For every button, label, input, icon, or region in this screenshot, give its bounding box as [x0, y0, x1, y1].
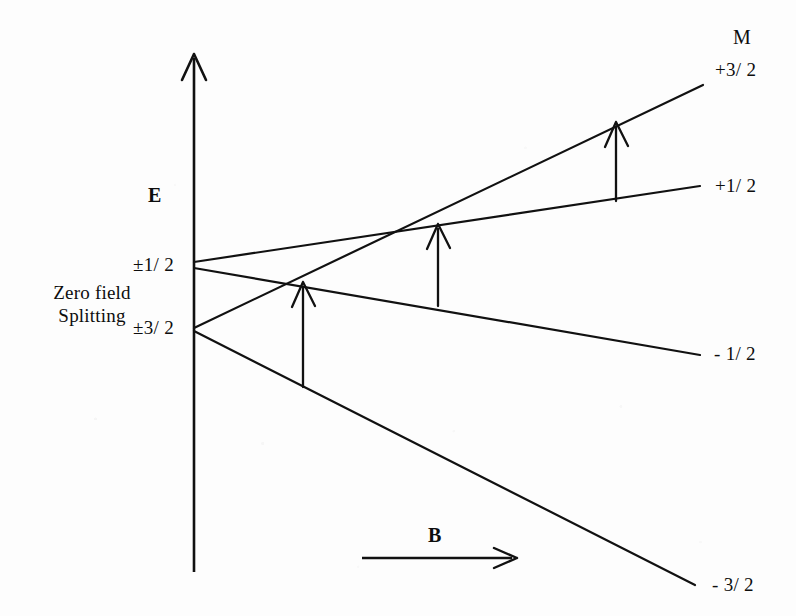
level-label-plus-three-half: +3/ 2 — [715, 60, 756, 79]
energy-level-lines — [194, 85, 703, 585]
figure-canvas: E B M Zero field Splitting ±1/ 2 ±3/ 2 +… — [0, 0, 796, 616]
transition-arrow-3 — [605, 122, 628, 201]
energy-axis-group — [182, 54, 206, 572]
m-quantum-number-header: M — [733, 27, 751, 47]
level-line-minus-one-half — [194, 268, 700, 355]
transition-arrows — [292, 122, 628, 387]
level-label-minus-one-half: - 1/ 2 — [714, 344, 756, 363]
level-label-plus-one-half: +1/ 2 — [715, 176, 756, 195]
field-axis-label: B — [428, 525, 441, 545]
level-line-minus-three-half — [194, 331, 695, 585]
transition-arrow-2 — [427, 224, 450, 306]
zero-field-level-half-label: ±1/ 2 — [133, 255, 174, 274]
level-label-minus-three-half: - 3/ 2 — [712, 575, 754, 594]
level-line-plus-one-half — [194, 186, 700, 262]
field-axis-group — [362, 548, 517, 568]
zero-field-splitting-line1: Zero field — [18, 281, 166, 304]
transition-arrow-1 — [292, 282, 315, 387]
level-line-plus-three-half — [194, 85, 703, 328]
energy-axis-label: E — [148, 185, 161, 205]
zero-field-level-three-half-label: ±3/ 2 — [133, 318, 174, 337]
